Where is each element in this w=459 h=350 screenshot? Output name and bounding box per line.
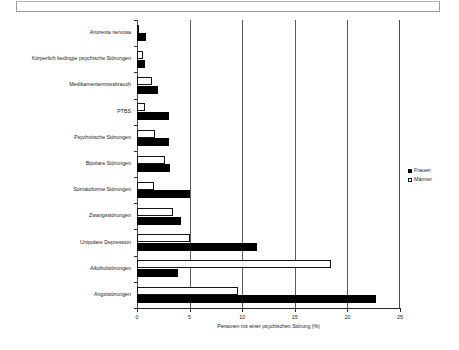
bar-maenner-0 (137, 25, 139, 33)
bar-maenner-8 (137, 234, 190, 242)
bar-frauen-5 (137, 164, 170, 172)
bar-frauen-10 (137, 295, 376, 303)
plot-area: 0510152025 (137, 20, 400, 308)
category-label-5: Bipolare Störungen (86, 161, 131, 166)
legend-swatch-maenner-icon (408, 178, 412, 182)
category-label-8: Unipolare Depression (80, 240, 131, 245)
x-tick-0 (137, 308, 138, 312)
y-tick-6 (134, 177, 137, 178)
category-axis-labels: Anorexia nervosaKörperlich bedingte psyc… (0, 20, 135, 308)
y-tick-5 (134, 151, 137, 152)
chart-figure: Anorexia nervosaKörperlich bedingte psyc… (0, 14, 459, 350)
bar-maenner-10 (137, 287, 238, 295)
bar-maenner-7 (137, 208, 173, 216)
bar-frauen-8 (137, 243, 257, 251)
bar-maenner-1 (137, 51, 143, 59)
bar-frauen-0 (137, 33, 146, 41)
legend-label-maenner: Männer (414, 177, 432, 182)
bar-frauen-9 (137, 269, 178, 277)
x-tick-label-10: 10 (239, 314, 245, 320)
category-label-3: PTBS (117, 109, 131, 114)
y-tick-7 (134, 203, 137, 204)
bar-maenner-9 (137, 260, 331, 268)
legend-swatch-frauen-icon (408, 169, 412, 173)
x-tick-label-5: 5 (188, 314, 191, 320)
x-tick-label-20: 20 (344, 314, 350, 320)
category-label-9: Alkoholstörungen (90, 266, 131, 271)
bar-maenner-5 (137, 156, 165, 164)
bar-frauen-7 (137, 217, 181, 225)
bar-maenner-2 (137, 77, 152, 85)
category-label-6: Somatoforme Störungen (73, 188, 131, 193)
y-tick-8 (134, 229, 137, 230)
x-tick-label-0: 0 (136, 314, 139, 320)
category-label-0: Anorexia nervosa (90, 30, 131, 35)
category-label-10: Angststörungen (94, 292, 131, 297)
category-label-4: Psychotische Störungen (74, 135, 131, 140)
category-label-7: Zwangsstörungen (89, 214, 131, 219)
x-tick-15 (295, 308, 296, 312)
plot-right-border (399, 20, 400, 308)
category-label-2: Medikamentenmissbrauch (69, 83, 131, 88)
category-label-1: Körperlich bedingte psychische Störungen (32, 57, 131, 62)
x-tick-25 (400, 308, 401, 312)
legend-item-frauen: Frauen (408, 167, 456, 175)
x-tick-10 (242, 308, 243, 312)
chart-legend: Frauen Männer (408, 167, 456, 185)
y-tick-4 (134, 125, 137, 126)
bar-frauen-3 (137, 112, 169, 120)
bar-maenner-6 (137, 182, 154, 190)
page-top-border (16, 1, 440, 12)
bar-frauen-1 (137, 60, 145, 68)
y-tick-10 (134, 282, 137, 283)
y-tick-2 (134, 72, 137, 73)
gridline-20 (347, 20, 348, 308)
y-tick-9 (134, 256, 137, 257)
bar-frauen-6 (137, 190, 190, 198)
bar-maenner-4 (137, 130, 155, 138)
x-tick-20 (347, 308, 348, 312)
y-tick-0 (134, 20, 137, 21)
bar-maenner-3 (137, 103, 145, 111)
x-tick-label-25: 25 (397, 314, 403, 320)
x-tick-5 (190, 308, 191, 312)
y-tick-3 (134, 99, 137, 100)
y-tick-1 (134, 46, 137, 47)
bar-frauen-2 (137, 86, 158, 94)
legend-label-frauen: Frauen (414, 168, 431, 173)
legend-item-maenner: Männer (408, 176, 456, 184)
x-axis-title: Personen mit einer psychischen Störung (… (137, 323, 400, 329)
x-tick-label-15: 15 (292, 314, 298, 320)
bar-frauen-4 (137, 138, 169, 146)
x-axis-line (137, 308, 400, 309)
